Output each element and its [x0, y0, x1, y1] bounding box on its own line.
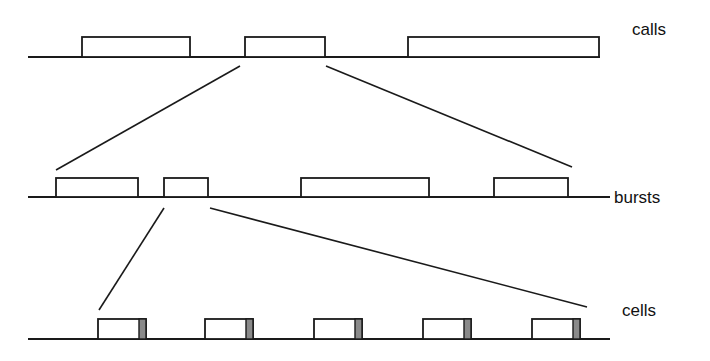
cell-header-tail: [246, 319, 253, 339]
cell-header-tail: [464, 319, 471, 339]
bursts-box: [164, 178, 208, 197]
zoom-line: [210, 208, 587, 307]
cells-level: [28, 319, 610, 339]
bursts-box: [56, 178, 138, 197]
zoom-line: [326, 66, 572, 167]
bursts-box: [494, 178, 568, 197]
zoom-line: [99, 208, 164, 310]
cells-label: cells: [622, 301, 656, 320]
cell-header-tail: [355, 319, 362, 339]
calls-box: [245, 37, 325, 57]
bursts-label: bursts: [614, 188, 660, 207]
calls-level: [28, 37, 600, 57]
calls-label: calls: [632, 20, 666, 39]
calls-box: [82, 37, 190, 57]
traffic-hierarchy-diagram: calls bursts cells: [0, 0, 710, 361]
cell-header-tail: [573, 319, 580, 339]
bursts-level: [28, 178, 610, 197]
cell-header-tail: [139, 319, 146, 339]
calls-box: [408, 37, 599, 57]
zoom-line: [56, 66, 240, 170]
bursts-box: [301, 178, 429, 197]
